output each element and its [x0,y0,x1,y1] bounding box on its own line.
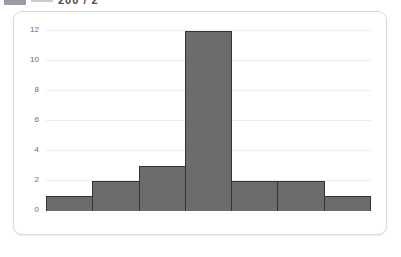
header-label: 200 / 2 [58,0,99,6]
bar [277,181,324,211]
bar-group [46,31,371,211]
plot-area: 024681012 [46,31,371,211]
page-header-strip: 200 / 2 [0,0,401,7]
y-axis-tick-label: 4 [35,146,39,154]
dash-icon [31,0,53,2]
blue-tag-icon [4,0,26,5]
bar [324,196,371,211]
header-content: 200 / 2 [4,0,99,7]
y-axis-tick-label: 12 [30,26,39,34]
bar [92,181,139,211]
chart-card: 024681012 [13,11,387,235]
screenshot-root: 200 / 2 024681012 [0,0,401,257]
bar [231,181,278,211]
y-axis-tick-label: 6 [35,116,39,124]
y-axis-tick-label: 8 [35,86,39,94]
histogram-chart: 024681012 [14,12,388,236]
bar [139,166,186,211]
y-axis-tick-label: 10 [30,56,39,64]
y-axis-tick-label: 2 [35,176,39,184]
bar [46,196,93,211]
y-axis-tick-label: 0 [35,206,39,214]
bar [185,31,232,211]
